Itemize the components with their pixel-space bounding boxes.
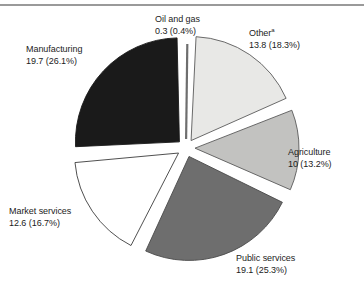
- pie-chart-figure: Oil and gas 0.3 (0.4%) Othera 13.8 (18.3…: [0, 0, 364, 294]
- slice-label-agriculture-name: Agriculture: [288, 147, 330, 157]
- slice-label-oil-and-gas-name: Oil and gas: [155, 14, 200, 24]
- slice-label-other: Othera 13.8 (18.3%): [249, 28, 300, 51]
- slice-label-oil-and-gas: Oil and gas 0.3 (0.4%): [155, 14, 200, 37]
- slice-label-public-services-value: 19.1 (25.3%): [236, 265, 295, 277]
- slice-label-market-services-name: Market services: [9, 206, 71, 216]
- slice-label-other-name: Other: [249, 28, 271, 38]
- pie-slice-manufacturing[interactable]: [75, 38, 179, 147]
- slice-label-oil-and-gas-value: 0.3 (0.4%): [155, 26, 200, 38]
- slice-label-agriculture: Agriculture 10 (13.2%): [288, 147, 332, 170]
- slice-label-manufacturing-name: Manufacturing: [26, 44, 82, 54]
- slice-label-market-services: Market services 12.6 (16.7%): [9, 206, 71, 229]
- slice-label-manufacturing: Manufacturing 19.7 (26.1%): [26, 44, 82, 67]
- slice-label-manufacturing-value: 19.7 (26.1%): [26, 56, 82, 68]
- footnote-marker-other: a: [271, 27, 274, 33]
- slice-label-other-value: 13.8 (18.3%): [249, 40, 300, 52]
- pie-slice-oil-and-gas[interactable]: [186, 44, 187, 139]
- slice-label-public-services: Public services 19.1 (25.3%): [236, 253, 295, 276]
- slice-label-public-services-name: Public services: [236, 253, 295, 263]
- slice-label-market-services-value: 12.6 (16.7%): [9, 218, 71, 230]
- slice-label-agriculture-value: 10 (13.2%): [288, 159, 332, 171]
